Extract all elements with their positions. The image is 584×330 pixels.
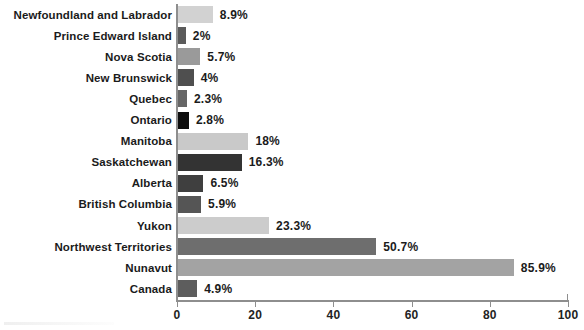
category-label: Alberta xyxy=(132,177,172,189)
x-tick-label: 100 xyxy=(558,308,579,322)
x-tick-label: 20 xyxy=(248,308,262,322)
category-label: Quebec xyxy=(129,93,172,105)
x-axis-line xyxy=(176,300,568,302)
bar-value-label: 85.9% xyxy=(521,261,556,275)
scan-artifact xyxy=(4,322,114,325)
bar-value-label: 2.8% xyxy=(196,113,224,127)
bar-value-label: 18% xyxy=(255,134,280,148)
bar-value-label: 5.9% xyxy=(208,197,236,211)
bar-value-label: 23.3% xyxy=(276,219,311,233)
x-tick-mark xyxy=(490,300,491,307)
bar-row: New Brunswick4% xyxy=(0,67,584,88)
plot-area: 020406080100 Newfoundland and Labrador8.… xyxy=(0,0,584,330)
bar xyxy=(178,238,376,255)
bar-row: Newfoundland and Labrador8.9% xyxy=(0,4,584,25)
x-tick-mark xyxy=(568,300,569,307)
category-label: Northwest Territories xyxy=(54,241,172,253)
category-label: Prince Edward Island xyxy=(54,30,172,42)
bar xyxy=(178,48,200,65)
bar xyxy=(178,133,248,150)
bar-row: Prince Edward Island2% xyxy=(0,25,584,46)
bar-value-label: 5.7% xyxy=(207,50,235,64)
category-label: Nova Scotia xyxy=(105,51,172,63)
x-tick-label: 80 xyxy=(483,308,497,322)
bar-row: Northwest Territories50.7% xyxy=(0,236,584,257)
category-label: British Columbia xyxy=(78,198,172,210)
bar-value-label: 2.3% xyxy=(194,92,222,106)
bar xyxy=(178,175,203,192)
x-tick-mark xyxy=(255,300,256,307)
category-label: Canada xyxy=(130,283,172,295)
bar-row: Canada4.9% xyxy=(0,278,584,299)
bar-row: Alberta6.5% xyxy=(0,173,584,194)
category-label: Nunavut xyxy=(125,262,172,274)
category-label: New Brunswick xyxy=(86,72,172,84)
bar-value-label: 50.7% xyxy=(383,240,418,254)
bar-value-label: 16.3% xyxy=(249,155,284,169)
x-tick-mark xyxy=(177,300,178,307)
bar xyxy=(178,112,189,129)
bar xyxy=(178,27,186,44)
bar-row: Quebec2.3% xyxy=(0,88,584,109)
x-tick-mark xyxy=(333,300,334,307)
x-tick-label: 40 xyxy=(327,308,341,322)
bar-value-label: 4.9% xyxy=(204,282,232,296)
bar-row: British Columbia5.9% xyxy=(0,194,584,215)
category-label: Newfoundland and Labrador xyxy=(14,9,172,21)
bar-row: Manitoba18% xyxy=(0,131,584,152)
x-tick-label: 0 xyxy=(174,308,181,322)
bar xyxy=(178,69,194,86)
bar-value-label: 6.5% xyxy=(210,176,238,190)
x-tick-label: 60 xyxy=(405,308,419,322)
category-label: Ontario xyxy=(130,114,172,126)
bar-value-label: 4% xyxy=(201,71,219,85)
bar xyxy=(178,154,242,171)
bar xyxy=(178,259,514,276)
bar-chart: 020406080100 Newfoundland and Labrador8.… xyxy=(0,0,584,330)
x-tick-mark xyxy=(412,300,413,307)
bar-value-label: 2% xyxy=(193,29,211,43)
bar-row: Saskatchewan16.3% xyxy=(0,152,584,173)
bar xyxy=(178,217,269,234)
category-label: Saskatchewan xyxy=(92,156,172,168)
bar xyxy=(178,90,187,107)
bar xyxy=(178,280,197,297)
bar xyxy=(178,6,213,23)
bar-row: Nunavut85.9% xyxy=(0,257,584,278)
category-label: Manitoba xyxy=(121,135,172,147)
bar xyxy=(178,196,201,213)
bar-row: Nova Scotia5.7% xyxy=(0,46,584,67)
bar-value-label: 8.9% xyxy=(220,8,248,22)
bar-row: Yukon23.3% xyxy=(0,215,584,236)
category-label: Yukon xyxy=(137,220,172,232)
bar-row: Ontario2.8% xyxy=(0,110,584,131)
